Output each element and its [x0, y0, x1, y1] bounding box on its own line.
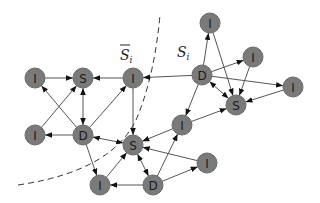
node-I5: I [197, 153, 217, 173]
edge-D3-I8 [211, 60, 243, 71]
edge-D1-I2 [90, 86, 127, 128]
node-D2: D [143, 175, 163, 195]
node-S2: S [123, 135, 143, 155]
svg-text:D: D [78, 129, 87, 143]
partition-boundary [18, 15, 160, 185]
edge-D3-I6 [186, 84, 199, 115]
edge-I4-S2 [106, 153, 126, 178]
node-D1: D [73, 125, 93, 145]
node-I3: I [25, 125, 45, 145]
svg-text:I: I [208, 17, 212, 31]
svg-text:S: S [79, 72, 87, 86]
svg-text:I: I [131, 72, 135, 86]
node-I2: I [123, 68, 143, 88]
svg-text:I: I [33, 72, 37, 86]
node-I7: I [200, 13, 220, 33]
edge-I6-S2 [142, 129, 172, 141]
node-I8: I [243, 47, 263, 67]
edge-D1-S2 [93, 137, 123, 143]
edge-I6-S3 [191, 108, 226, 121]
node-I6: I [172, 115, 192, 135]
edge-I7-S3 [213, 33, 233, 96]
svg-text:I: I [205, 157, 209, 171]
node-I1: I [25, 68, 45, 88]
svg-text:I: I [251, 51, 255, 65]
node-D3: D [192, 65, 212, 85]
node-S1: S [73, 68, 93, 88]
edge-D2-I5 [162, 167, 197, 181]
edge-S2-D2 [137, 154, 148, 176]
nodes: ISIIDSIDIIDIIIS [25, 13, 303, 195]
node-I4: I [90, 175, 110, 195]
edge-D3-S3 [209, 82, 228, 99]
svg-text:I: I [33, 129, 37, 143]
node-S3: S [226, 95, 246, 115]
edge-D3-I7 [204, 33, 209, 65]
svg-text:I: I [291, 81, 295, 95]
network-diagram: ISIIDSIDIIDIIIS Si Si [0, 0, 320, 203]
edge-I9-S3 [246, 90, 284, 102]
edge-D3-I9 [212, 76, 283, 85]
edge-D3-I2 [143, 75, 192, 77]
svg-text:D: D [197, 69, 206, 83]
svg-text:D: D [148, 179, 157, 193]
svg-text:S: S [129, 139, 137, 153]
svg-text:I: I [180, 119, 184, 133]
node-I9: I [283, 77, 303, 97]
svg-text:I: I [98, 179, 102, 193]
svg-text:S: S [232, 99, 240, 113]
label-s-i: Si [177, 44, 190, 62]
label-s-bar: Si [120, 47, 133, 65]
edge-D1-I4 [86, 144, 97, 175]
